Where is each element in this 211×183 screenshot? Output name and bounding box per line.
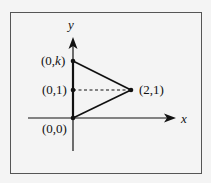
point-unit-y-label: (0,1) xyxy=(42,82,67,97)
triangle-diagram: x y (0,k) (0,1) (0,0) (2,1) xyxy=(0,0,211,183)
triangle-edge-lower xyxy=(73,90,131,118)
point-top xyxy=(71,59,76,64)
point-origin xyxy=(71,116,76,121)
triangle-edge-upper xyxy=(73,61,131,90)
frame xyxy=(11,13,202,174)
point-right xyxy=(129,88,134,93)
point-right-label: (2,1) xyxy=(139,82,164,97)
y-axis-label: y xyxy=(66,17,74,32)
x-axis-label: x xyxy=(180,111,187,126)
point-unit-y xyxy=(71,88,76,93)
point-top-label: (0,k) xyxy=(41,53,65,68)
point-origin-label: (0,0) xyxy=(42,121,67,136)
